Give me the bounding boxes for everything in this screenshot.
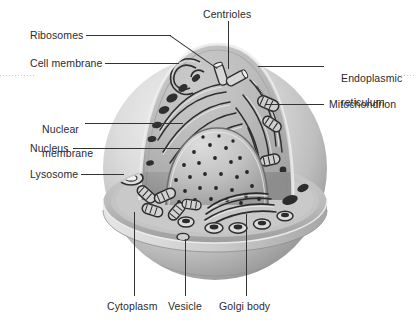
label-cell-membrane: Cell membrane [30,57,103,69]
label-centrioles: Centrioles [203,8,251,20]
label-nuclear-membrane-line1: Nuclear [42,123,79,135]
label-golgi-body: Golgi body [219,300,270,312]
leader-mitochondrion [265,104,324,105]
label-nucleus: Nucleus [30,142,69,154]
label-ribosomes: Ribosomes [30,29,83,41]
label-vesicle: Vesicle [168,300,202,312]
leader-ribosomes-horizontal [86,35,171,36]
scan-artifact-left [0,75,36,76]
label-endoplasmic-reticulum: Endoplasmic reticulum [329,60,402,120]
leader-lysosome [81,174,124,175]
label-nuclear-membrane: Nuclear membrane [30,111,93,171]
leader-nuclear-membrane [85,123,183,124]
leader-cell-membrane [105,63,179,64]
leader-golgi-body [246,214,247,296]
label-endoplasmic-reticulum-line1: Endoplasmic [341,72,402,84]
label-cytoplasm: Cytoplasm [107,300,158,312]
label-lysosome: Lysosome [30,168,78,180]
leader-endoplasmic-reticulum [258,66,324,67]
leader-vesicle [185,239,186,296]
label-mitochondrion: Mitochondrion [329,98,396,110]
leader-centrioles [228,21,229,69]
cell-diagram-figure: Centrioles Ribosomes Cell membrane Nucle… [0,0,419,326]
leader-cytoplasm [134,212,135,296]
